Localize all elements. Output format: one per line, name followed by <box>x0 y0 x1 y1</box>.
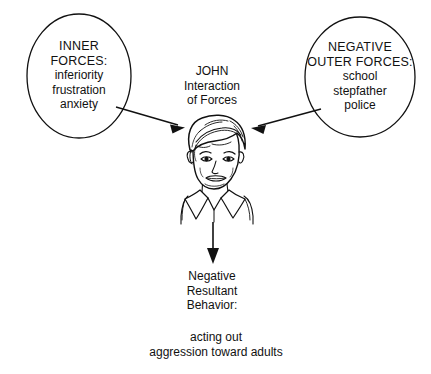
center-subject-label: JOHN Interaction of Forces <box>157 64 267 108</box>
left-force-item-3: anxiety <box>29 97 129 112</box>
outcome-detail-line-1: acting out <box>126 330 306 345</box>
boy-face-illustration <box>181 115 253 224</box>
left-force-item-1: inferiority <box>29 68 129 83</box>
right-force-heading-line-1: NEGATIVE <box>304 40 416 55</box>
force-field-diagram: INNER FORCES: inferiority frustration an… <box>0 0 431 374</box>
left-force-item-2: frustration <box>29 83 129 98</box>
right-force-heading-line-2: OUTER FORCES: <box>304 55 416 70</box>
left-force-heading-line-1: INNER <box>29 39 129 54</box>
arrow-right-to-center <box>251 109 321 134</box>
center-subject-line-2: Interaction <box>157 79 267 94</box>
arrow-center-to-outcome <box>207 222 219 264</box>
left-force-heading-line-2: FORCES: <box>29 54 129 69</box>
outcome-heading: Negative Resultant Behavior: <box>152 269 272 313</box>
center-subject-line-3: of Forces <box>157 93 267 108</box>
left-force-label: INNER FORCES: inferiority frustration an… <box>29 39 129 112</box>
right-force-label: NEGATIVE OUTER FORCES: school stepfather… <box>304 40 416 113</box>
outcome-heading-line-3: Behavior: <box>152 298 272 313</box>
right-force-item-1: school <box>304 69 416 84</box>
outcome-heading-line-2: Resultant <box>152 284 272 299</box>
right-force-item-3: police <box>304 98 416 113</box>
center-subject-name: JOHN <box>157 64 267 79</box>
right-force-item-2: stepfather <box>304 84 416 99</box>
outcome-detail-line-2: aggression toward adults <box>126 345 306 360</box>
outcome-heading-line-1: Negative <box>152 269 272 284</box>
outcome-detail: acting out aggression toward adults <box>126 330 306 359</box>
